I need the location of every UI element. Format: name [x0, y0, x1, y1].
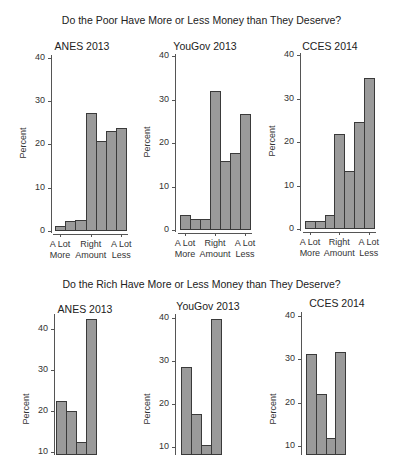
- y-tick: [297, 99, 300, 100]
- poor-anes-2013-bar-7: [116, 128, 127, 231]
- y-tick-label: 10: [153, 181, 169, 191]
- y-tick: [298, 446, 301, 447]
- y-tick-label: 30: [153, 355, 169, 365]
- y-tick: [172, 404, 175, 405]
- y-tick: [172, 100, 175, 101]
- y-tick-label: 10: [29, 182, 45, 192]
- y-tick-label: 20: [153, 398, 169, 408]
- bottom-section-title: Do the Rich Have More or Less Money than…: [0, 278, 403, 290]
- poor-cces-2014-y-label: Percent: [267, 121, 277, 161]
- y-tick: [48, 144, 51, 145]
- y-tick-label: 30: [278, 93, 294, 103]
- y-tick-label: 20: [29, 138, 45, 148]
- y-tick-label: 40: [32, 323, 48, 333]
- poor-cces-2014-y-axis: [300, 53, 301, 231]
- y-tick-label: 30: [153, 94, 169, 104]
- x-tick: [369, 232, 370, 235]
- x-tick: [215, 233, 216, 236]
- poor-yougov-2013-x-label-right: A LotLess: [225, 238, 265, 260]
- y-tick: [48, 58, 51, 59]
- rich-cces-2014-y-label: Percent: [268, 389, 278, 429]
- y-tick: [172, 230, 175, 231]
- rich-anes-2013-y-axis: [54, 314, 55, 455]
- y-tick: [297, 229, 300, 230]
- x-tick: [310, 232, 311, 235]
- rich-yougov-2013-y-axis: [175, 314, 176, 455]
- poor-yougov-2013-y-label: Percent: [142, 122, 152, 162]
- y-tick-label: 10: [32, 446, 48, 455]
- poor-yougov-2013-bar-7: [240, 114, 251, 230]
- x-tick: [91, 234, 92, 237]
- rich-anes-2013-bar-4: [86, 319, 97, 455]
- rich-cces-2014-y-axis: [301, 312, 302, 455]
- y-tick-label: 30: [279, 353, 295, 363]
- y-tick-label: 40: [279, 310, 295, 320]
- y-tick-label: 10: [278, 180, 294, 190]
- top-section-title: Do the Poor Have More or Less Money than…: [0, 14, 403, 26]
- y-tick: [51, 411, 54, 412]
- y-tick-label: 10: [279, 440, 295, 450]
- y-tick: [172, 447, 175, 448]
- poor-cces-2014-title: CCES 2014: [290, 40, 370, 52]
- y-tick: [48, 188, 51, 189]
- y-tick-label: 20: [32, 405, 48, 415]
- y-tick-label: 20: [153, 137, 169, 147]
- y-tick: [298, 403, 301, 404]
- rich-anes-2013-y-label: Percent: [21, 389, 31, 429]
- poor-anes-2013-title: ANES 2013: [42, 40, 122, 52]
- x-tick: [60, 234, 61, 237]
- y-tick-label: 0: [29, 225, 45, 235]
- x-tick: [245, 233, 246, 236]
- rich-anes-2013-title: ANES 2013: [45, 303, 125, 315]
- y-tick-label: 40: [153, 50, 169, 60]
- y-tick: [51, 370, 54, 371]
- y-tick-label: 40: [153, 312, 169, 322]
- y-tick-label: 10: [153, 441, 169, 451]
- y-tick-label: 20: [278, 136, 294, 146]
- x-tick: [121, 234, 122, 237]
- poor-cces-2014-bar-7: [364, 78, 375, 229]
- rich-cces-2014-title: CCES 2014: [297, 297, 377, 309]
- y-tick: [298, 316, 301, 317]
- y-tick: [51, 329, 54, 330]
- poor-anes-2013-y-label: Percent: [18, 123, 28, 163]
- rich-yougov-2013-bar-4: [211, 319, 222, 455]
- y-tick-label: 30: [32, 364, 48, 374]
- y-tick: [297, 55, 300, 56]
- y-tick-label: 30: [29, 95, 45, 105]
- y-tick-label: 0: [153, 224, 169, 234]
- poor-anes-2013-x-label-right: A LotLess: [101, 239, 141, 261]
- y-tick: [297, 142, 300, 143]
- y-tick: [172, 187, 175, 188]
- y-tick: [172, 361, 175, 362]
- poor-anes-2013-y-axis: [51, 55, 52, 233]
- y-tick: [51, 452, 54, 453]
- y-tick: [48, 231, 51, 232]
- poor-yougov-2013-y-axis: [175, 54, 176, 232]
- x-tick: [185, 233, 186, 236]
- y-tick-label: 0: [278, 223, 294, 233]
- y-tick-label: 20: [279, 397, 295, 407]
- x-tick: [339, 232, 340, 235]
- poor-yougov-2013-title: YouGov 2013: [165, 40, 245, 52]
- y-tick: [48, 101, 51, 102]
- y-tick: [298, 359, 301, 360]
- poor-cces-2014-x-label-right: A LotLess: [349, 237, 389, 259]
- y-tick: [172, 143, 175, 144]
- y-tick: [172, 318, 175, 319]
- y-tick: [172, 56, 175, 57]
- rich-yougov-2013-y-label: Percent: [142, 389, 152, 429]
- y-tick: [297, 186, 300, 187]
- rich-cces-2014-bar-4: [335, 352, 346, 455]
- y-tick-label: 40: [278, 49, 294, 59]
- y-tick-label: 40: [29, 52, 45, 62]
- rich-yougov-2013-title: YouGov 2013: [168, 300, 248, 312]
